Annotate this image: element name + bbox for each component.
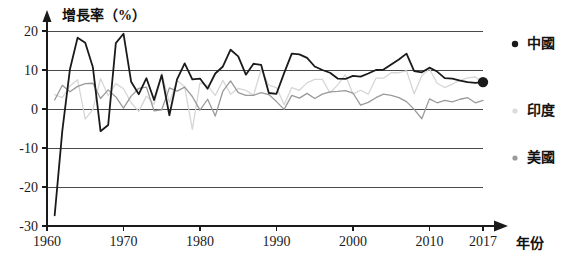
y-axis-arrow-icon (43, 10, 52, 22)
chart-canvas: 20100-10-20-30 1960197019801990200020102… (0, 0, 582, 268)
y-tick-label: -20 (19, 180, 38, 195)
y-tick-label: -10 (19, 141, 38, 156)
x-tick-label: 1970 (109, 234, 137, 249)
x-axis-title: 年份 (516, 235, 545, 251)
x-axis-tick-labels: 1960197019801990200020102017 (33, 234, 497, 249)
series-line-印度 (55, 69, 483, 129)
x-tick-label: 1980 (186, 234, 214, 249)
series-line-美國 (55, 81, 483, 119)
x-tick-label: 1990 (262, 234, 290, 249)
gridlines (47, 31, 483, 187)
growth-rate-chart: 20100-10-20-30 1960197019801990200020102… (0, 0, 582, 268)
x-tick-label: 2000 (339, 234, 367, 249)
y-axis-tick-labels: 20100-10-20-30 (19, 24, 38, 234)
series-endpoint-marker-中國 (478, 77, 488, 87)
x-tick-marks (47, 226, 483, 231)
y-tick-label: 0 (31, 102, 38, 117)
data-series-group (55, 34, 489, 216)
legend-marker-icon (512, 155, 517, 160)
legend-label: 中國 (527, 35, 555, 51)
x-axis-arrow-icon (494, 221, 508, 232)
legend-marker-icon (512, 108, 517, 113)
legend-label: 印度 (527, 102, 556, 118)
legend-label: 美國 (527, 149, 555, 165)
x-tick-label: 2010 (415, 234, 443, 249)
series-line-中國 (55, 34, 483, 216)
y-tick-marks (42, 31, 47, 226)
chart-title: 增長率（%） (62, 7, 146, 23)
y-tick-label: 20 (24, 24, 38, 39)
y-tick-label: -30 (19, 219, 38, 234)
chart-legend: 中國印度美國 (512, 35, 556, 165)
x-tick-label: 2017 (469, 234, 497, 249)
y-axis (42, 10, 52, 226)
legend-marker-icon (512, 41, 518, 47)
x-tick-label: 1960 (33, 234, 61, 249)
y-tick-label: 10 (24, 63, 38, 78)
x-axis (47, 221, 508, 232)
